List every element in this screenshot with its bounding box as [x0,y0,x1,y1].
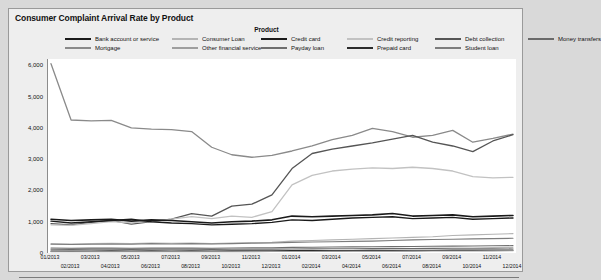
legend-swatch-icon [347,47,373,49]
legend-swatch-icon [435,47,461,49]
legend-item-label: Other financial service [202,45,261,51]
legend-item[interactable]: Credit reporting [347,34,418,43]
legend-heading: Product [9,26,524,33]
legend-column: Bank account or serviceMortgage [65,34,159,52]
legend-item-label: Student loan [465,45,499,51]
series-lines [48,59,516,253]
legend-column: Money transfers [528,34,601,43]
x-axis-rule [19,277,519,278]
legend-item[interactable]: Payday loan [261,43,324,52]
y-axis-tick-label: 2,000 [9,187,43,193]
x-axis-tick-label: 11/2014 [483,254,501,260]
legend-item[interactable]: Prepaid card [347,43,418,52]
legend-item-label: Money transfers [558,36,601,42]
x-axis-tick-label: 10/2014 [462,263,481,269]
x-axis-tick-label: 01/2013 [41,254,60,260]
x-axis-tick-label: 09/2013 [201,254,220,260]
legend-item[interactable]: Money transfers [528,34,601,43]
x-axis-tick-label: 09/2014 [442,254,461,260]
x-axis-tick-label: 07/2014 [402,254,421,260]
legend-swatch-icon [65,38,91,40]
legend-swatch-icon [347,38,373,40]
x-axis-tick-label: 06/2013 [141,263,160,269]
x-axis-tick-label: 10/2013 [221,263,240,269]
x-axis-tick-label: 06/2014 [382,263,401,269]
legend-swatch-icon [261,47,287,49]
y-axis: 01,0002,0003,0004,0005,0006,000 [9,59,43,253]
series-line [51,167,513,225]
legend-swatch-icon [528,38,554,40]
legend-column: Debt collectionStudent loan [435,34,504,52]
legend-item[interactable]: Bank account or service [65,34,159,43]
x-axis-tick-label: 02/2013 [61,263,80,269]
y-axis-tick-label: 0 [9,250,43,256]
x-axis-tick-label: 07/2013 [161,254,180,260]
legend-swatch-icon [435,38,461,40]
x-axis-tick-label: 04/2014 [342,263,361,269]
x-axis-tick-label: 08/2013 [181,263,200,269]
legend-item[interactable]: Student loan [435,43,504,52]
legend-item-label: Mortgage [95,45,120,51]
chart-legend: Product Bank account or serviceMortgageC… [9,26,524,56]
x-axis-tick-label: 11/2013 [242,254,260,260]
page-title: Consumer Complaint Arrival Rate by Produ… [15,13,193,23]
legend-item-label: Payday loan [291,45,324,51]
x-axis-tick-label: 12/2014 [503,263,522,269]
legend-swatch-icon [172,47,198,49]
y-axis-tick-label: 1,000 [9,219,43,225]
y-axis-tick-label: 3,000 [9,156,43,162]
y-axis-tick-label: 4,000 [9,125,43,131]
series-line [51,64,513,158]
legend-item-label: Debt collection [465,36,504,42]
legend-item-label: Credit card [291,36,320,42]
legend-swatch-icon [172,38,198,40]
legend-item-label: Consumer Loan [202,36,245,42]
legend-item-label: Credit reporting [377,36,418,42]
y-axis-tick-label: 5,000 [9,94,43,100]
legend-swatch-icon [65,47,91,49]
legend-item[interactable]: Mortgage [65,43,159,52]
legend-column: Credit cardPayday loan [261,34,324,52]
legend-item[interactable]: Debt collection [435,34,504,43]
x-axis-tick-label: 05/2013 [121,254,140,260]
legend-column: Credit reportingPrepaid card [347,34,418,52]
legend-item-label: Prepaid card [377,45,411,51]
legend-item[interactable]: Consumer Loan [172,34,261,43]
x-axis-tick-label: 02/2014 [302,263,321,269]
legend-swatch-icon [261,38,287,40]
x-axis-tick-label: 05/2014 [362,254,381,260]
x-axis-tick-label: 12/2013 [262,263,281,269]
x-axis: 01/201302/201303/201304/201305/201306/20… [47,254,515,278]
legend-item[interactable]: Credit card [261,34,324,43]
legend-item-label: Bank account or service [95,36,159,42]
x-axis-tick-label: 03/2013 [81,254,100,260]
series-line [51,135,513,225]
x-axis-tick-label: 01/2014 [282,254,301,260]
y-axis-tick-label: 6,000 [9,62,43,68]
legend-item[interactable]: Other financial service [172,43,261,52]
x-axis-tick-label: 03/2014 [322,254,341,260]
x-axis-tick-label: 04/2013 [101,263,120,269]
plot-area [47,59,516,253]
legend-column: Consumer LoanOther financial service [172,34,261,52]
chart-card: Consumer Complaint Arrival Rate by Produ… [8,8,523,272]
x-axis-tick-label: 08/2014 [422,263,441,269]
